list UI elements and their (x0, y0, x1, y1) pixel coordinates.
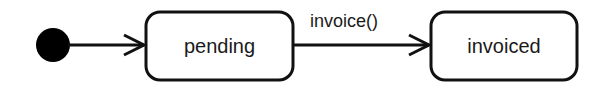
transition-initial-to-pending (68, 35, 144, 55)
state-label: invoiced (467, 35, 540, 57)
state-diagram: pending invoice() invoiced (0, 0, 613, 91)
initial-state-node (36, 28, 70, 62)
state-pending: pending (146, 12, 293, 80)
state-invoiced: invoiced (431, 12, 577, 80)
state-label: pending (184, 35, 255, 57)
transition-label: invoice() (310, 11, 378, 31)
transition-pending-to-invoiced: invoice() (293, 11, 429, 55)
